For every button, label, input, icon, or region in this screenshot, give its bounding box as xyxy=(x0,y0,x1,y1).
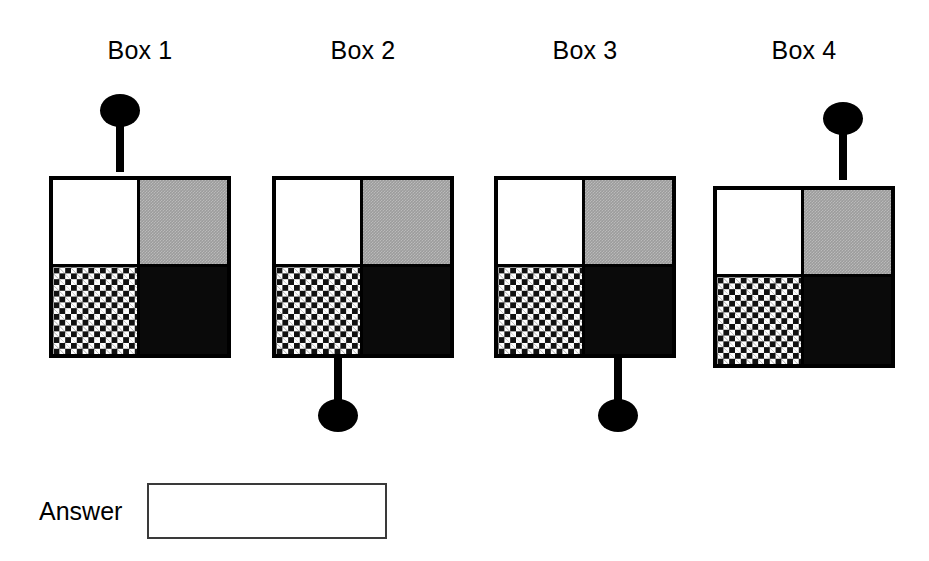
answer-row: Answer xyxy=(39,483,387,539)
puzzle-canvas: Box 1 Box 2 Box 3 xyxy=(0,0,929,561)
knob-head-icon xyxy=(598,399,638,432)
quadrant-top-right-gray-4 xyxy=(804,190,891,277)
knob-stem-icon xyxy=(839,128,847,180)
quadrant-bottom-left-check-4 xyxy=(717,277,804,364)
quadrant-bottom-left-check-2 xyxy=(276,267,363,354)
box-title-3: Box 3 xyxy=(494,36,676,65)
box-title-1: Box 1 xyxy=(49,36,231,65)
quadrant-top-right-gray-1 xyxy=(140,180,227,267)
box-square-2[interactable] xyxy=(272,176,454,358)
knob-stem-icon xyxy=(116,120,124,172)
quadrant-bottom-right-black-4 xyxy=(804,277,891,364)
quadrant-top-right-gray-3 xyxy=(585,180,672,267)
quadrant-top-left-white-3 xyxy=(498,180,585,267)
box-square-4[interactable] xyxy=(713,186,895,368)
quadrant-bottom-left-check-1 xyxy=(53,267,140,354)
quadrant-top-left-white-1 xyxy=(53,180,140,267)
box-square-1[interactable] xyxy=(49,176,231,358)
answer-label: Answer xyxy=(39,497,122,526)
quadrant-top-left-white-4 xyxy=(717,190,804,277)
quadrant-top-right-gray-2 xyxy=(363,180,450,267)
answer-input[interactable] xyxy=(147,483,387,539)
quadrant-top-left-white-2 xyxy=(276,180,363,267)
knob-head-icon xyxy=(318,399,358,432)
quadrant-bottom-left-check-3 xyxy=(498,267,585,354)
quadrant-bottom-right-black-3 xyxy=(585,267,672,354)
box-title-2: Box 2 xyxy=(272,36,454,65)
box-square-3[interactable] xyxy=(494,176,676,358)
box-title-4: Box 4 xyxy=(713,36,895,65)
quadrant-bottom-right-black-2 xyxy=(363,267,450,354)
quadrant-bottom-right-black-1 xyxy=(140,267,227,354)
